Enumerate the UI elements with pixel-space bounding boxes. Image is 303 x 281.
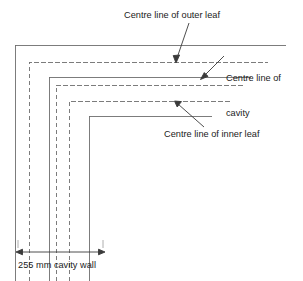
dimension-extension-ticks (18, 240, 103, 248)
diagram-canvas: Centre line of outer leaf Centre line of… (0, 0, 303, 281)
cavity-leader (201, 56, 225, 80)
label-centre-line-inner-leaf: Centre line of inner leaf (164, 129, 260, 141)
inner-leaf-leader (175, 101, 205, 127)
inner-face-line (89, 116, 212, 281)
cavity-outer-face-line (49, 77, 251, 281)
label-centre-line-outer-leaf: Centre line of outer leaf (124, 10, 220, 22)
label-cavity-line2: cavity (226, 108, 281, 120)
inner-leaf-centre-line (69, 101, 231, 281)
label-cavity-line1: Centre line of (226, 73, 281, 85)
label-dimension-value: 255 mm cavity wall (18, 260, 96, 272)
outer-leaf-leader (173, 23, 189, 63)
